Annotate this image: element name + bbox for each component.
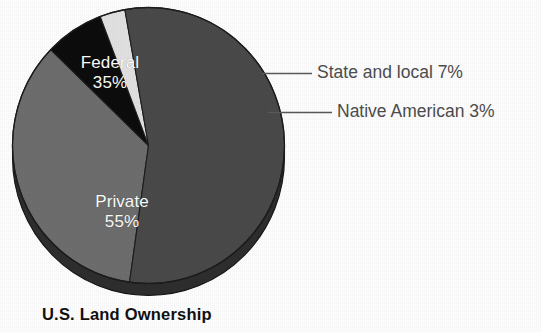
chart-title: U.S. Land Ownership	[42, 305, 212, 324]
pie-slices	[12, 8, 284, 284]
callout-label-native-american: Native American 3%	[337, 101, 495, 121]
pie-chart-graphic	[0, 0, 541, 332]
pie-slice-private	[125, 8, 285, 284]
callout-label-state-and-local: State and local 7%	[317, 62, 463, 82]
pie-chart-figure: Federal 35% Private 55% State and local …	[0, 0, 541, 332]
